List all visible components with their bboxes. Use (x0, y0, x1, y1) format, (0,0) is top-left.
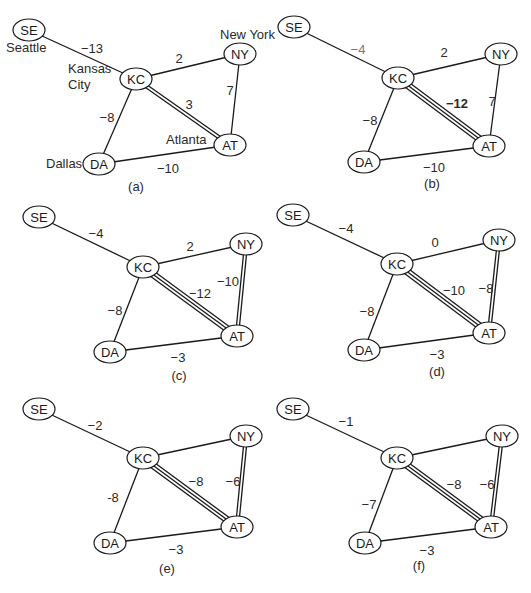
edge-weight-label: −2 (88, 418, 103, 433)
node-label: KC (134, 451, 152, 466)
node-da: DA (348, 339, 380, 361)
node-at: AT (473, 322, 505, 344)
node-da: DA (348, 151, 380, 173)
node-label: KC (389, 71, 407, 86)
edge-se-kc (39, 217, 143, 267)
node-se: SE (13, 19, 45, 41)
node-label: KC (388, 257, 406, 272)
node-label: AT (222, 138, 238, 153)
node-se: SE (277, 398, 309, 420)
panel-caption: (c) (171, 368, 186, 383)
edge-weight-label: 3 (185, 97, 192, 112)
edge-weight-label: −8 (363, 113, 378, 128)
city-label-atlanta: Atlanta (166, 132, 207, 147)
panel-f: −1−8−6−7−3SEKCNYATDA(f) (277, 398, 518, 573)
node-se: SE (277, 204, 309, 226)
panels-group: −13237−8−10SEKCNYATDA(a)SeattleKansasCit… (6, 16, 518, 576)
panel-caption: (e) (159, 561, 175, 576)
edge-se-kc (294, 27, 398, 78)
edge-weight-label: −3 (420, 543, 435, 558)
node-label: AT (229, 520, 245, 535)
edge-weight-label: −8 (479, 281, 494, 296)
edge-ny-at (236, 244, 248, 336)
node-at: AT (473, 135, 505, 157)
node-at: AT (221, 516, 253, 538)
node-at: AT (221, 325, 253, 347)
edge-weight-label: 2 (186, 239, 193, 254)
node-at: AT (475, 516, 507, 538)
edge-weight-label: −8 (100, 110, 115, 125)
edge-se-kc (39, 409, 143, 458)
node-da: DA (94, 532, 126, 554)
node-ny: NY (230, 233, 262, 255)
edge-weight-label: −10 (157, 161, 179, 176)
node-at: AT (214, 134, 246, 156)
node-label: NY (237, 429, 255, 444)
edge-weight-label: −8 (108, 303, 123, 318)
node-label: NY (490, 233, 508, 248)
node-ny: NY (224, 43, 256, 65)
panel-caption: (a) (128, 179, 144, 194)
edge-weight-label: −8 (189, 474, 204, 489)
node-label: AT (481, 139, 497, 154)
node-label: NY (231, 47, 249, 62)
node-label: KC (127, 72, 145, 87)
node-label: NY (492, 47, 510, 62)
edge-weight-label: −4 (339, 221, 354, 236)
node-ny: NY (486, 425, 518, 447)
edge-da-at (364, 333, 489, 350)
edge-weight-label: −6 (226, 474, 241, 489)
edge-weight-label: -8 (107, 490, 119, 505)
edge-weight-label: −1 (339, 414, 354, 429)
node-da: DA (83, 153, 115, 175)
edge-weight-label: −13 (81, 41, 103, 56)
network-diagram: −13237−8−10SEKCNYATDA(a)SeattleKansasCit… (0, 0, 531, 593)
city-label-new-york: New York (220, 27, 275, 42)
node-ny: NY (230, 425, 262, 447)
edge-da-at (365, 527, 491, 543)
edge-weight-label: 0 (431, 235, 438, 250)
node-label: NY (493, 429, 511, 444)
edge-weight-label: −4 (89, 226, 104, 241)
edge-weight-label: 7 (226, 83, 233, 98)
node-label: AT (483, 520, 499, 535)
panel-b: −42−127−8−10SEKCNYATDA(b) (278, 16, 517, 191)
node-label: SE (284, 208, 302, 223)
city-label-seattle: Seattle (6, 40, 46, 55)
city-label-dallas: Dallas (46, 156, 83, 171)
edge-weight-label: 2 (440, 45, 447, 60)
edge-kc-at (395, 456, 493, 530)
edge-weight-label: −12 (189, 286, 211, 301)
node-kc: KC (381, 253, 413, 275)
edge-weight-label: 7 (488, 94, 495, 109)
node-label: DA (355, 343, 373, 358)
panel-a: −13237−8−10SEKCNYATDA(a)SeattleKansasCit… (6, 19, 275, 194)
node-label: KC (134, 260, 152, 275)
node-label: AT (481, 326, 497, 341)
edge-weight-label: 2 (175, 51, 182, 66)
edge-weight-label: −8 (447, 477, 462, 492)
edge-weight-label: −4 (351, 42, 366, 57)
city-label-kansas: Kansas (68, 61, 112, 76)
edge-kc-at (396, 76, 491, 149)
edge-weight-label: −7 (362, 497, 377, 512)
edge-weight-label: −10 (217, 274, 239, 289)
edge-weight-label: −3 (171, 350, 186, 365)
node-se: SE (23, 398, 55, 420)
node-kc: KC (382, 67, 414, 89)
node-kc: KC (127, 256, 159, 278)
node-label: AT (229, 329, 245, 344)
node-label: SE (30, 402, 48, 417)
node-label: SE (20, 23, 38, 38)
edge-weight-label: −6 (480, 477, 495, 492)
panel-caption: (b) (424, 176, 440, 191)
node-label: DA (355, 155, 373, 170)
edge-kc-at (141, 456, 239, 530)
panel-caption: (f) (413, 558, 425, 573)
node-label: DA (356, 536, 374, 551)
node-label: SE (285, 20, 303, 35)
edge-weight-label: −3 (430, 347, 445, 362)
node-se: SE (278, 16, 310, 38)
node-da: DA (94, 341, 126, 363)
node-se: SE (23, 206, 55, 228)
